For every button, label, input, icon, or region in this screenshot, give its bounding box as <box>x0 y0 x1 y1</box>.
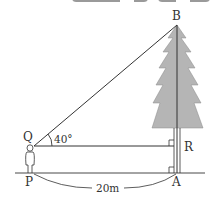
label-q: Q <box>23 130 33 144</box>
diagram-canvas: B Q 40° R P A 20m <box>0 0 219 206</box>
angle-arc-q <box>48 134 52 146</box>
top-cropped-bars <box>72 0 210 2</box>
label-p: P <box>25 175 33 189</box>
label-distance: 20m <box>96 182 119 194</box>
label-r: R <box>184 140 194 154</box>
right-angle-a <box>169 167 174 173</box>
label-b: B <box>172 9 181 23</box>
distance-arc-right <box>124 174 176 188</box>
right-angle-r <box>169 140 174 146</box>
label-angle: 40° <box>54 133 73 145</box>
label-a: A <box>171 175 181 189</box>
person-icon <box>26 145 35 173</box>
distance-arc <box>34 174 92 188</box>
